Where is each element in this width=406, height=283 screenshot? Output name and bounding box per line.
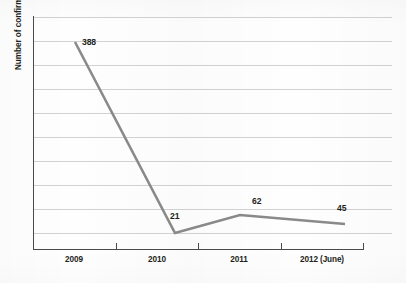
data-series-line — [0, 0, 406, 283]
point-label-2009: 388 — [82, 37, 96, 47]
chart-figure: Number of confirmed WPV cases 388 21 62 … — [0, 0, 406, 283]
point-label-2012: 45 — [337, 203, 346, 213]
x-axis-label-2012: 2012 (June) — [300, 255, 344, 264]
point-label-2011: 62 — [252, 196, 261, 206]
x-axis-label-2009: 2009 — [65, 255, 83, 264]
y-axis-title: Number of confirmed WPV cases — [12, 0, 26, 70]
x-axis-label-2011: 2011 — [230, 255, 247, 264]
point-label-2010: 21 — [170, 211, 179, 221]
x-axis-label-2010: 2010 — [148, 255, 166, 264]
